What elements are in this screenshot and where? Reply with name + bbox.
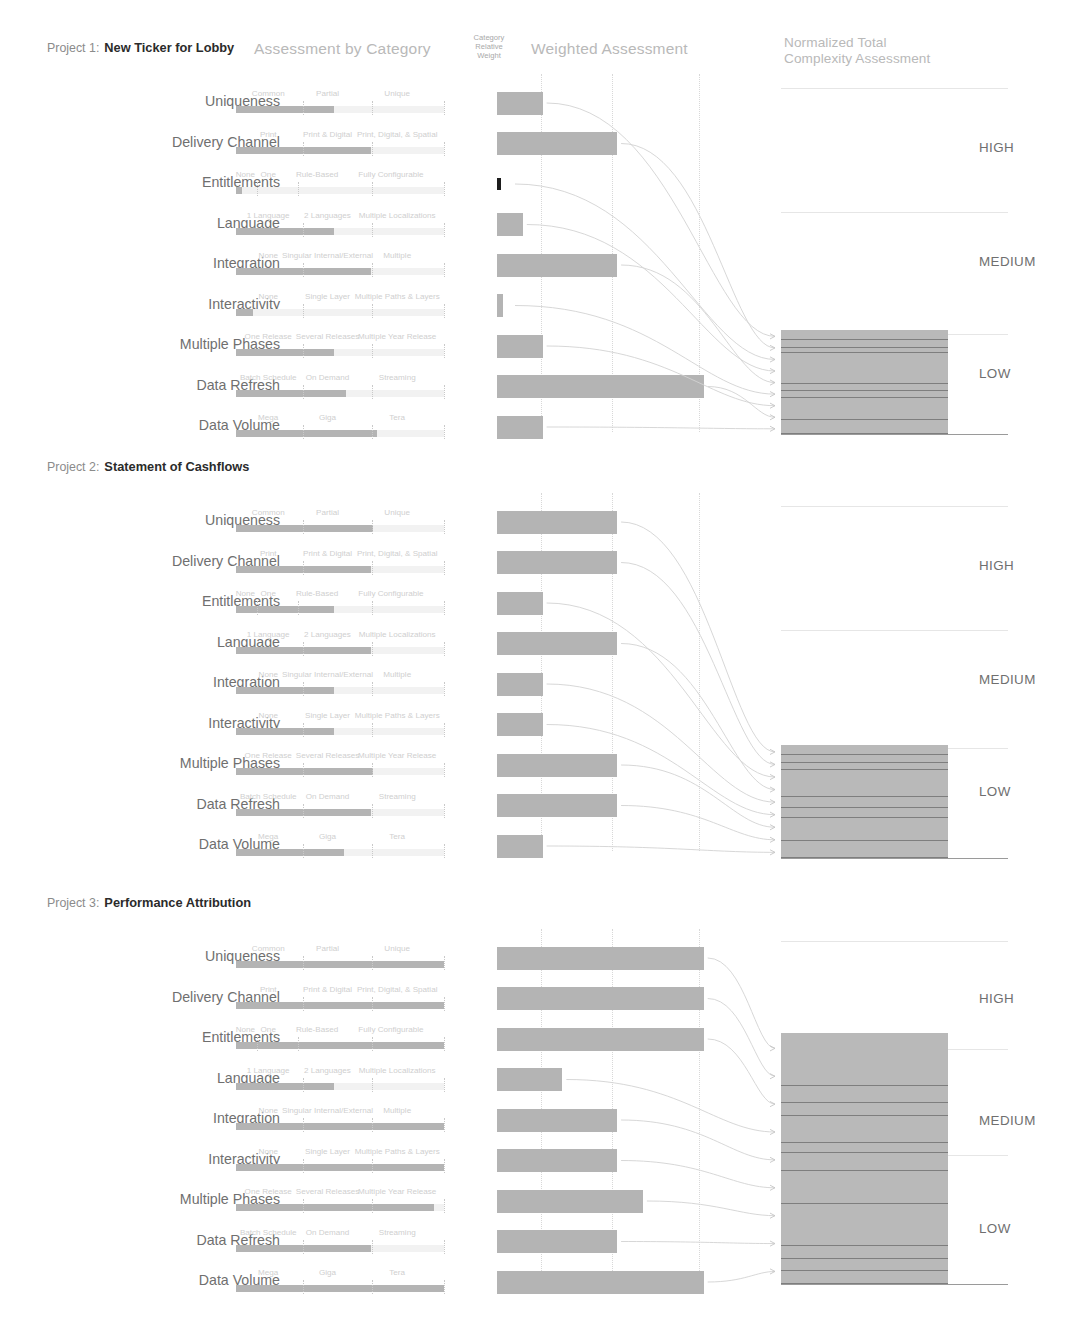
assessment-tick-1: [372, 304, 373, 318]
project-number-label: Project 1:: [47, 41, 99, 55]
assessment-tick-1: [372, 425, 373, 439]
assessment-bar: [236, 687, 444, 694]
scale-label: One Release: [245, 1187, 292, 1196]
assessment-tick-2: [444, 520, 445, 534]
normalized-segment-1: [781, 1086, 948, 1104]
scale-label: Tera: [389, 413, 405, 422]
scale-labels: NoneSingular Internal/ExternalMultiple: [236, 670, 446, 682]
assessment-bar: [236, 1083, 444, 1090]
normalized-segment-3: [781, 770, 948, 797]
scale-label: On Demand: [306, 792, 350, 801]
scale-label: Single Layer: [305, 292, 350, 301]
assessment-tick-1: [298, 182, 299, 196]
scale-label: On Demand: [306, 373, 350, 382]
assessment-ticks: [236, 524, 444, 535]
assessment-tick-2: [444, 1118, 445, 1132]
weighted-cell: [492, 704, 722, 744]
assessment-tick-0: [257, 182, 258, 196]
assessment-ticks: [236, 146, 444, 157]
scale-label: Common: [252, 89, 285, 98]
assessment-tick-2: [444, 304, 445, 318]
weighted-bar: [497, 632, 617, 655]
scale-label: 1 Language: [247, 630, 290, 639]
assessment-bar: [236, 349, 444, 356]
scale-label: Singular Internal/External: [282, 251, 373, 260]
assessment-ticks: [236, 1244, 444, 1255]
assessment-bar: [236, 1204, 444, 1211]
complexity-band-label-high: HIGH: [979, 991, 1014, 1006]
scale-label: Partial: [316, 89, 339, 98]
assessment-bar: [236, 647, 444, 654]
assessment-ticks: [236, 727, 444, 738]
scale-label: None: [236, 589, 255, 598]
scale-label: Print: [260, 130, 277, 139]
assessment-bar: [236, 430, 444, 437]
weighted-cell: [492, 582, 722, 622]
assessment-bar: [236, 147, 444, 154]
assessment-tick-0: [303, 682, 304, 696]
header-weight-line2: Relative: [468, 42, 510, 51]
complexity-band-label-low: LOW: [979, 1221, 1011, 1236]
scale-labels: NoneSingular Internal/ExternalMultiple: [236, 1106, 446, 1118]
assessment-ticks: [236, 267, 444, 278]
weighted-bar: [497, 1271, 704, 1294]
normalized-segment-7: [781, 420, 948, 434]
weighted-cell: [492, 123, 722, 163]
scale-label: None: [236, 1025, 255, 1034]
assessment-tick-2: [444, 1078, 445, 1092]
scale-label: Partial: [316, 944, 339, 953]
assessment-tick-0: [303, 425, 304, 439]
assessment-tick-0: [303, 763, 304, 777]
project-number-label: Project 3:: [47, 896, 99, 910]
scale-label: One: [261, 170, 276, 179]
normalized-segment-2: [781, 763, 948, 770]
assessment-tick-1: [372, 142, 373, 156]
scale-labels: One ReleaseSeveral ReleasesMultiple Year…: [236, 751, 446, 763]
scale-label: Streaming: [379, 1228, 416, 1237]
assessment-bar: [236, 566, 444, 573]
assessment-ticks: [236, 227, 444, 238]
normalized-segment-1: [781, 755, 948, 763]
assessment-tick-0: [303, 1159, 304, 1173]
complexity-band-label-high: HIGH: [979, 558, 1014, 573]
assessment-bar: [236, 849, 444, 856]
assessment-bar: [236, 809, 444, 816]
normalized-segment-9: [781, 1259, 948, 1272]
category-row: Delivery ChannelPrintPrint & DigitalPrin…: [0, 542, 1069, 582]
weighted-bar: [497, 835, 543, 858]
assessment-tick-1: [298, 1037, 299, 1051]
assessment-tick-3: [444, 601, 445, 615]
scale-label: Mega: [258, 413, 278, 422]
weighted-bar: [497, 213, 523, 236]
scale-labels: NoneOneRule-BasedFully Configurable: [236, 589, 446, 601]
category-row: UniquenessCommonPartialUnique: [0, 501, 1069, 541]
assessment-bar: [236, 390, 444, 397]
category-row: EntitlementsNoneOneRule-BasedFully Confi…: [0, 163, 1069, 203]
scale-label: Unique: [384, 89, 410, 98]
assessment-tick-1: [372, 956, 373, 970]
assessment-tick-1: [372, 1118, 373, 1132]
assessment-ticks: [236, 767, 444, 778]
scale-label: Giga: [319, 832, 336, 841]
scale-labels: 1 Language2 LanguagesMultiple Localizati…: [236, 630, 446, 642]
scale-label: Multiple Localizations: [359, 1066, 436, 1075]
scale-labels: NoneSingle LayerMultiple Paths & Layers: [236, 292, 446, 304]
scale-label: One: [261, 1025, 276, 1034]
normalized-segment-6: [781, 1171, 948, 1204]
assessment-tick-1: [372, 561, 373, 575]
assessment-tick-0: [257, 601, 258, 615]
scale-labels: Batch ScheduleOn DemandStreaming: [236, 792, 446, 804]
project-title: Project 1:New Ticker for Lobby: [47, 40, 234, 55]
assessment-tick-2: [444, 1240, 445, 1254]
scale-label: Print & Digital: [303, 549, 352, 558]
assessment-ticks: [236, 1001, 444, 1012]
header-normalized-line1: Normalized Total: [784, 35, 930, 51]
complexity-band-label-high: HIGH: [979, 140, 1014, 155]
scale-label: Multiple Localizations: [359, 630, 436, 639]
scale-labels: NoneOneRule-BasedFully Configurable: [236, 170, 446, 182]
scale-label: Mega: [258, 1268, 278, 1277]
scale-label: 2 Languages: [304, 630, 351, 639]
assessment-tick-1: [372, 223, 373, 237]
weighted-cell: [492, 744, 722, 784]
scale-label: Singular Internal/External: [282, 1106, 373, 1115]
